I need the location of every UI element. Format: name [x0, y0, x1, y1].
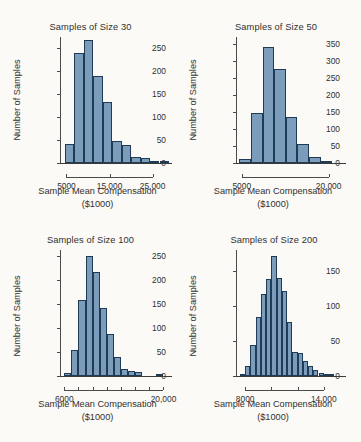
y-axis-tick: [57, 304, 61, 305]
histogram-bar: [251, 113, 263, 163]
histogram-bar: [160, 161, 169, 163]
baseline: [60, 163, 172, 164]
x-axis-tick: [324, 387, 325, 391]
x-axis-tick: [110, 174, 111, 178]
y-axis-tick: [57, 256, 61, 257]
y-axis-tick-label: 100: [326, 124, 340, 134]
y-axis-tick-label: 50: [331, 336, 340, 346]
histogram-bar: [263, 47, 275, 163]
chart-title: Samples of Size 200: [187, 235, 361, 245]
y-axis-tick-label: 250: [326, 73, 340, 83]
y-axis-tick: [233, 306, 237, 307]
histogram-bar: [128, 371, 135, 376]
histogram-figure-grid: Samples of Size 30 Number of Samples 050…: [0, 0, 361, 442]
x-axis-tick: [329, 174, 330, 178]
y-axis-tick: [57, 117, 61, 118]
histogram-bar: [122, 145, 131, 163]
y-axis-label: Number of Samples: [12, 266, 22, 366]
y-axis-tick-label: 150: [152, 89, 166, 99]
chart-title: Samples of Size 30: [0, 22, 181, 32]
y-axis-tick-label: 100: [152, 112, 166, 122]
x-axis-tick: [78, 387, 79, 391]
y-axis-line: [236, 37, 237, 163]
histogram-bar: [107, 334, 114, 376]
x-axis-tick: [271, 387, 272, 391]
panel-samples-of-size-200: Samples of Size 200 Number of Samples 05…: [181, 221, 361, 442]
y-axis-label: Number of Samples: [12, 50, 22, 150]
x-axis-tick: [153, 174, 154, 178]
histogram-bar: [309, 157, 321, 163]
y-axis-tick: [57, 140, 61, 141]
y-axis-tick: [57, 94, 61, 95]
x-axis-tick: [149, 387, 150, 391]
histogram-bar: [93, 76, 102, 163]
y-axis-tick: [57, 280, 61, 281]
histogram-bar: [74, 53, 83, 163]
chart-title: Samples of Size 100: [0, 235, 181, 245]
y-axis-tick: [233, 95, 237, 96]
y-axis-tick: [57, 352, 61, 353]
plot-area: 050100150800014,000: [236, 250, 346, 376]
y-axis-tick-label: 50: [157, 347, 166, 357]
y-axis-tick: [233, 146, 237, 147]
histogram-bar: [65, 144, 74, 163]
histogram-bar: [239, 159, 251, 163]
y-axis-tick-label: 150: [326, 266, 340, 276]
y-axis-tick: [233, 341, 237, 342]
histogram-bar: [100, 308, 107, 376]
y-axis-tick-label: 250: [152, 43, 166, 53]
histogram-bar: [84, 40, 93, 163]
baseline: [60, 376, 172, 377]
x-axis-label: Sample Mean Compensation: [187, 186, 359, 196]
histogram-bar: [103, 102, 112, 163]
x-axis-label: Sample Mean Compensation: [187, 399, 359, 409]
histogram-bar: [93, 272, 100, 376]
x-axis-label: Sample Mean Compensation: [18, 399, 177, 409]
histogram-bar: [286, 117, 298, 163]
x-axis-line: [64, 390, 163, 391]
histogram-bar: [274, 69, 286, 163]
histogram-bar: [78, 300, 85, 376]
x-axis-tick: [298, 387, 299, 391]
x-axis-units: ($1000): [18, 412, 177, 422]
histogram-bar: [135, 372, 142, 376]
chart-title: Samples of Size 50: [191, 22, 361, 32]
x-axis-tick: [163, 387, 164, 391]
y-axis-tick-label: 200: [326, 90, 340, 100]
y-axis-tick-label: 100: [152, 323, 166, 333]
histogram-bar: [141, 158, 150, 163]
histogram-bar: [112, 141, 121, 163]
y-axis-line: [236, 250, 237, 376]
y-axis-line: [60, 37, 61, 163]
y-axis-tick: [233, 44, 237, 45]
y-axis-tick-label: 200: [152, 66, 166, 76]
histogram-bar: [150, 161, 159, 163]
histogram-bar: [297, 144, 309, 163]
histogram-bar: [329, 374, 334, 376]
histogram-bar: [64, 373, 71, 376]
panel-samples-of-size-30: Samples of Size 30 Number of Samples 050…: [0, 0, 181, 221]
y-axis-tick: [57, 48, 61, 49]
x-axis-line: [66, 177, 152, 178]
x-axis-tick: [66, 174, 67, 178]
histogram-bar: [121, 369, 128, 376]
panel-samples-of-size-50: Samples of Size 50 Number of Samples 050…: [181, 0, 361, 221]
y-axis-tick: [233, 271, 237, 272]
y-axis-label: Number of Samples: [188, 50, 198, 150]
histogram-bar: [156, 374, 163, 376]
y-axis-label: Number of Samples: [188, 266, 198, 366]
baseline: [236, 163, 346, 164]
plot-area: 050100150200250300350500020,000: [236, 37, 346, 163]
y-axis-tick: [57, 328, 61, 329]
x-axis-units: ($1000): [18, 199, 177, 209]
y-axis-tick-label: 150: [326, 107, 340, 117]
x-axis-line: [242, 177, 329, 178]
y-axis-tick-label: 250: [152, 251, 166, 261]
histogram-bar: [321, 161, 333, 163]
y-axis-line: [60, 250, 61, 376]
plot-area: 050100150200250600020,000: [60, 250, 172, 376]
x-axis-tick: [64, 387, 65, 391]
x-axis-tick: [242, 174, 243, 178]
x-axis-tick: [107, 387, 108, 391]
x-axis-tick: [245, 387, 246, 391]
